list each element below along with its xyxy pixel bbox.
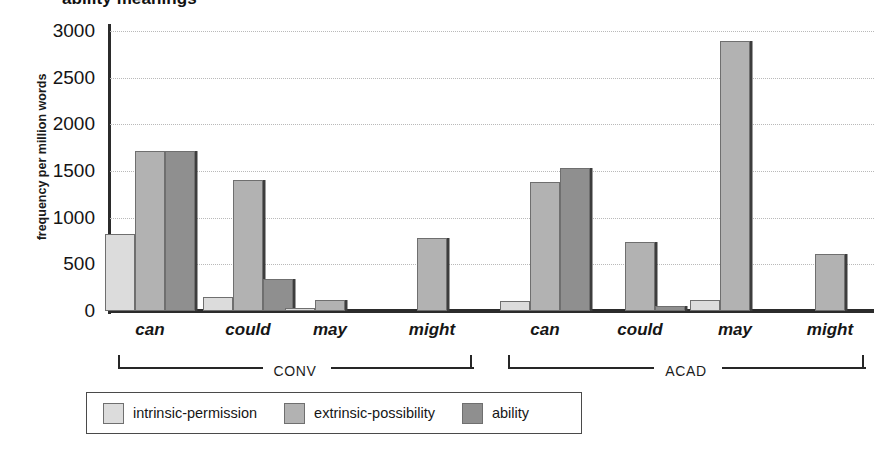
x-tick-label-may-2: may <box>313 320 347 340</box>
gridline-1000 <box>110 218 874 219</box>
gridline-2500 <box>110 78 874 79</box>
group-label-conv: CONV <box>267 363 324 379</box>
bar-conv-might-extrinsic-possibility <box>417 238 447 311</box>
y-tick-label-500: 500 <box>0 253 104 275</box>
group-bracket-conv: CONV <box>118 355 472 369</box>
bar-acad-could-ability <box>655 306 685 311</box>
x-tick-label-could-5: could <box>617 320 662 340</box>
plot-area <box>110 31 874 311</box>
legend-item-extrinsic-possibility: extrinsic-possibility <box>284 403 435 424</box>
gridline-2000 <box>110 124 874 125</box>
y-tick-label-2000: 2000 <box>0 113 104 135</box>
legend-swatch-ability <box>462 403 483 424</box>
bar-conv-could-extrinsic-possibility <box>233 180 263 311</box>
chart-figure: ability meanings frequency per million w… <box>0 0 886 449</box>
legend-item-ability: ability <box>462 403 529 424</box>
group-bracket-acad: ACAD <box>508 355 864 369</box>
bar-conv-may-intrinsic-permission <box>285 308 315 311</box>
y-tick-label-1000: 1000 <box>0 207 104 229</box>
bar-conv-can-intrinsic-permission <box>105 234 135 311</box>
bar-conv-could-intrinsic-permission <box>203 297 233 311</box>
x-tick-label-could-1: could <box>225 320 270 340</box>
bracket-line-right <box>331 367 474 369</box>
y-tick-label-3000: 3000 <box>0 20 104 42</box>
gridline-1500 <box>110 171 874 172</box>
y-tick-label-2500: 2500 <box>0 67 104 89</box>
chart-title: ability meanings <box>62 0 197 9</box>
legend-label-ability: ability <box>492 405 529 421</box>
bar-acad-could-extrinsic-possibility <box>625 242 655 311</box>
bar-conv-could-ability <box>263 279 293 311</box>
x-tick-label-can-4: can <box>530 320 559 340</box>
bar-conv-may-extrinsic-possibility <box>315 300 345 311</box>
legend-swatch-intrinsic-permission <box>103 403 124 424</box>
y-tick-label-1500: 1500 <box>0 160 104 182</box>
y-axis-label: frequency per million words <box>35 22 49 292</box>
legend-swatch-extrinsic-possibility <box>284 403 305 424</box>
gridline-500 <box>110 264 874 265</box>
x-tick-label-might-3: might <box>409 320 455 340</box>
x-tick-label-may-6: may <box>718 320 752 340</box>
bar-acad-might-extrinsic-possibility <box>815 254 845 311</box>
bar-acad-can-ability <box>560 168 590 311</box>
x-tick-label-can-0: can <box>135 320 164 340</box>
legend-label-extrinsic-possibility: extrinsic-possibility <box>314 405 435 421</box>
bar-acad-can-extrinsic-possibility <box>530 182 560 311</box>
bar-acad-may-extrinsic-possibility <box>720 41 750 311</box>
legend-label-intrinsic-permission: intrinsic-permission <box>133 405 257 421</box>
bar-conv-can-extrinsic-possibility <box>135 151 165 311</box>
x-tick-label-might-7: might <box>807 320 853 340</box>
bracket-line-left <box>120 367 263 369</box>
bracket-line-left <box>510 367 654 369</box>
bar-acad-can-intrinsic-permission <box>500 301 530 311</box>
bracket-line-right <box>722 367 866 369</box>
y-tick-label-0: 0 <box>0 300 104 322</box>
gridline-3000 <box>110 31 874 32</box>
group-label-acad: ACAD <box>658 363 713 379</box>
bar-conv-can-ability <box>165 151 195 311</box>
bar-acad-may-intrinsic-permission <box>690 300 720 311</box>
chart-legend: intrinsic-permissionextrinsic-possibilit… <box>86 392 582 434</box>
legend-item-intrinsic-permission: intrinsic-permission <box>103 403 257 424</box>
